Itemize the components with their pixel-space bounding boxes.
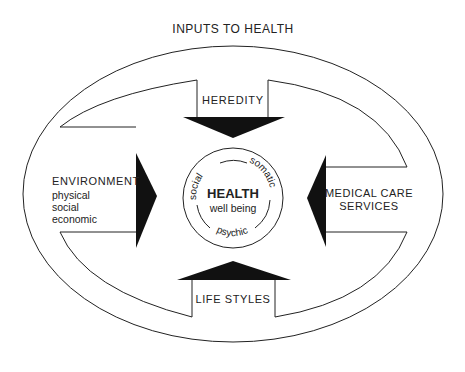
- environment-label: ENVIRONMENT: [52, 175, 140, 187]
- environment-sublabel-physical: physical: [52, 189, 90, 201]
- environment-sublabel-social: social: [52, 201, 79, 213]
- heredity-label: HEREDITY: [202, 94, 264, 106]
- medical-care-arrow-head: [307, 155, 326, 247]
- environment-arrow-head: [136, 153, 157, 248]
- inputs-to-health-diagram: INPUTS TO HEALTH HEREDITY ENVIRONMENT ph…: [0, 0, 465, 372]
- health-subtitle: well being: [209, 202, 257, 214]
- diagram-title: INPUTS TO HEALTH: [172, 22, 293, 36]
- health-title: HEALTH: [207, 186, 259, 201]
- life-styles-arrow-head: [177, 261, 291, 280]
- medical-care-label-line2: SERVICES: [339, 200, 398, 212]
- medical-care-label-line1: MEDICAL CARE: [325, 187, 413, 199]
- environment-sublabel-economic: economic: [52, 213, 97, 225]
- heredity-arrow-head: [183, 117, 285, 138]
- life-styles-label: LIFE STYLES: [195, 293, 270, 305]
